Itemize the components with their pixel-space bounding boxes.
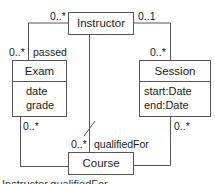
multiplicity-label: 0..*	[23, 120, 39, 132]
attribute-list: start:Date end:Date	[140, 81, 210, 112]
attribute-list: date grade	[13, 81, 66, 112]
role-label: qualifiedFor	[94, 138, 149, 150]
attribute: date	[26, 84, 66, 98]
attribute: grade	[26, 98, 66, 112]
multiplicity-label: 0..*	[71, 138, 87, 150]
multiplicity-label: 0..*	[9, 46, 25, 58]
multiplicity-label: 0..*	[150, 46, 166, 58]
attribute: end:Date	[144, 98, 210, 112]
multiplicity-label: 0..*	[50, 10, 66, 22]
multiplicity-label: 0..*	[174, 120, 190, 132]
class-session: Session start:Date end:Date	[139, 60, 211, 117]
attribute: start:Date	[144, 84, 210, 98]
class-exam: Exam date grade	[12, 60, 67, 117]
class-name: Instructor	[69, 13, 133, 33]
class-instructor: Instructor	[68, 12, 134, 35]
class-course: Course	[68, 152, 134, 175]
class-name: Exam	[13, 61, 66, 81]
caption-clipped: Instructor.qualifiedFor	[2, 178, 108, 184]
multiplicity-label: 0..1	[138, 10, 156, 22]
class-name: Course	[69, 153, 133, 173]
role-label: passed	[33, 46, 67, 58]
class-name: Session	[140, 61, 210, 81]
